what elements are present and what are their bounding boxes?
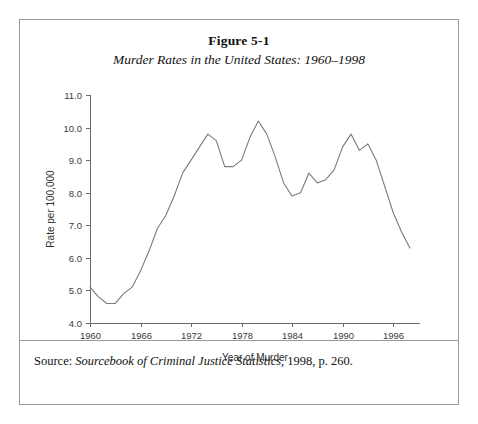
y-tick-label: 11.0 [64,90,82,101]
chart-plot-area: 4.05.06.07.08.09.010.011.0 1960196619721… [20,20,460,406]
source-label: Source: [34,354,72,368]
y-tick-label: 4.0 [69,318,82,329]
y-tick-label: 10.0 [64,123,83,134]
y-tick-label: 8.0 [69,188,82,199]
y-tick-label: 7.0 [69,220,82,231]
line-chart-svg: 4.05.06.07.08.09.010.011.0 1960196619721… [20,20,460,406]
figure-container: Figure 5-1 Murder Rates in the United St… [19,19,459,405]
y-tick-label: 6.0 [69,253,82,264]
y-tick-label: 5.0 [69,285,82,296]
source-divider [20,340,458,341]
murder-rate-line [90,121,410,303]
y-axis-title: Rate per 100,000 [45,170,56,248]
y-tick-label: 9.0 [69,155,82,166]
source-citation-detail: , 1998, p. 260. [281,354,353,368]
source-publication-title: Sourcebook of Criminal Justice Statistic… [72,354,281,368]
source-note: Source: Sourcebook of Criminal Justice S… [34,353,446,369]
y-axis-tick-labels: 4.05.06.07.08.09.010.011.0 [64,90,83,329]
y-axis-tick-marks [86,96,90,324]
